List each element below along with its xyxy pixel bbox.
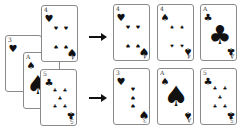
card-4-hearts: 4 ♥ ♥ ♥ ♥ ♥ ♥ 4 — [41, 5, 78, 62]
rank-label: 3 — [143, 117, 147, 123]
spade-icon: ♠ — [180, 25, 184, 30]
rank-label: 5 — [230, 117, 234, 123]
club-icon: ♣ — [63, 88, 67, 93]
club-icon: ♣ — [218, 95, 222, 100]
heart-icon: ♥ — [54, 44, 58, 49]
spade-icon: ♠ — [170, 43, 174, 48]
rank-label: 4 — [143, 53, 147, 59]
club-icon: ♣ — [53, 88, 57, 93]
rank-label: 4 — [187, 53, 191, 59]
rank-label: A — [230, 53, 234, 59]
card-ace-spades-result: A ♠ ♠ ♠ A — [157, 68, 194, 125]
club-icon: ♣ — [208, 22, 231, 48]
heart-icon: ♥ — [9, 44, 18, 54]
card-3-hearts-result: 3 ♥ ♥ ♥ ♥ ♥ 3 — [113, 68, 150, 125]
heart-icon: ♥ — [136, 25, 140, 30]
club-icon: ♣ — [223, 86, 227, 91]
spade-icon: ♠ — [163, 83, 188, 111]
club-icon: ♣ — [213, 86, 217, 91]
rank-label: 5 — [70, 118, 74, 124]
card-ace-clubs-result: A ♣ ♣ ♣ A — [200, 4, 237, 61]
spade-icon: ♠ — [170, 25, 174, 30]
club-icon: ♣ — [223, 104, 227, 109]
arrow-right-icon — [89, 36, 102, 38]
card-5-clubs-result: 5 ♣ ♣ ♣ ♣ ♣ ♣ ♣ 5 — [200, 68, 237, 125]
heart-icon: ♥ — [64, 26, 68, 31]
rank-label: 4 — [71, 54, 75, 60]
heart-icon: ♥ — [117, 13, 126, 23]
heart-icon: ♥ — [131, 103, 135, 108]
rank-label: A — [187, 117, 191, 123]
heart-icon: ♥ — [126, 43, 130, 48]
club-icon: ♣ — [58, 96, 62, 101]
heart-icon: ♥ — [45, 14, 54, 24]
spade-icon: ♠ — [161, 13, 170, 23]
club-icon: ♣ — [63, 104, 67, 109]
card-5-clubs: 5 ♣ ♣ ♣ ♣ ♣ ♣ ♣ 5 — [40, 69, 77, 126]
heart-icon: ♥ — [117, 77, 126, 87]
card-4-hearts-result: 4 ♥ ♥ ♥ ♥ ♥ ♥ 4 — [113, 4, 150, 61]
club-icon: ♣ — [213, 104, 217, 109]
heart-icon: ♥ — [126, 25, 130, 30]
heart-icon: ♥ — [131, 87, 135, 92]
card-4-spades-result: 4 ♠ ♠ ♠ ♠ ♠ ♠ 4 — [157, 4, 194, 61]
heart-icon: ♥ — [131, 95, 135, 100]
club-icon: ♣ — [204, 77, 213, 87]
arrow-right-icon — [89, 97, 102, 99]
heart-icon: ♥ — [54, 26, 58, 31]
club-icon: ♣ — [53, 104, 57, 109]
